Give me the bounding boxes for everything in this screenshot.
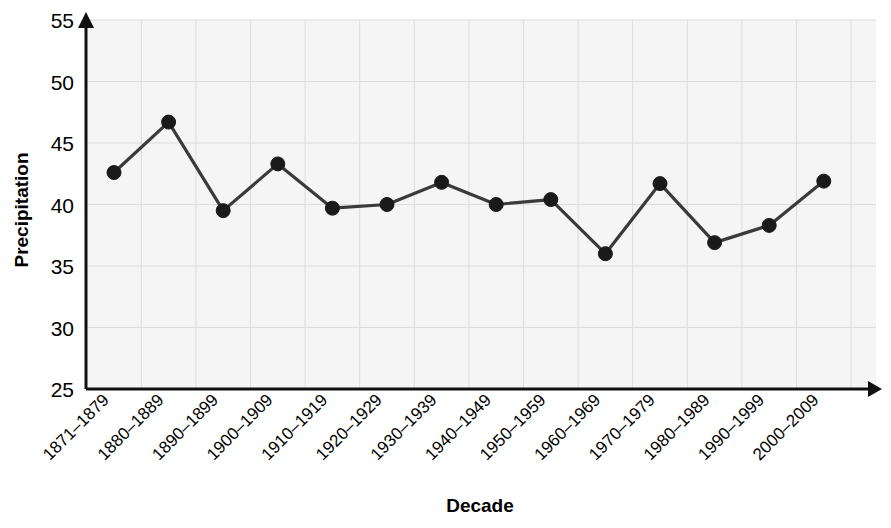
data-point-marker <box>380 198 394 212</box>
data-point-marker <box>762 218 776 232</box>
y-tick-label: 50 <box>51 71 74 94</box>
data-point-marker <box>544 193 558 207</box>
precipitation-line-chart: 25303540455055 1871–18791880–18891890–18… <box>0 0 891 528</box>
y-tick-label: 45 <box>51 132 74 155</box>
x-axis-tick-labels: 1871–18791880–18891890–18991900–19091910… <box>39 390 822 464</box>
x-axis-title: Decade <box>446 495 514 516</box>
data-point-marker <box>216 204 230 218</box>
y-tick-label: 35 <box>51 255 74 278</box>
data-point-marker <box>708 236 722 250</box>
data-point-marker <box>598 247 612 261</box>
data-point-marker <box>325 201 339 215</box>
y-tick-label: 25 <box>51 378 74 401</box>
y-axis-title: Precipitation <box>11 152 32 267</box>
chart-canvas: 25303540455055 1871–18791880–18891890–18… <box>0 0 891 528</box>
y-tick-label: 55 <box>51 9 74 32</box>
data-point-marker <box>271 157 285 171</box>
data-point-marker <box>489 198 503 212</box>
data-point-marker <box>107 166 121 180</box>
data-point-marker <box>653 177 667 191</box>
data-point-marker <box>435 175 449 189</box>
y-axis-tick-labels: 25303540455055 <box>51 9 74 401</box>
y-tick-label: 40 <box>51 194 74 217</box>
y-tick-label: 30 <box>51 317 74 340</box>
data-point-marker <box>817 174 831 188</box>
data-point-marker <box>162 115 176 129</box>
